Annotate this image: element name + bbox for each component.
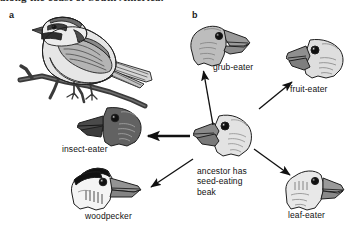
arrow-to-leaf-eater (254, 149, 290, 175)
arrow-to-woodpecker (151, 159, 193, 187)
arrow-layer (0, 0, 349, 232)
arrow-to-grub-eater (204, 71, 214, 125)
arrow-to-fruit-eater (259, 82, 292, 109)
figure-root: along the coast of South America. a b (0, 0, 349, 232)
